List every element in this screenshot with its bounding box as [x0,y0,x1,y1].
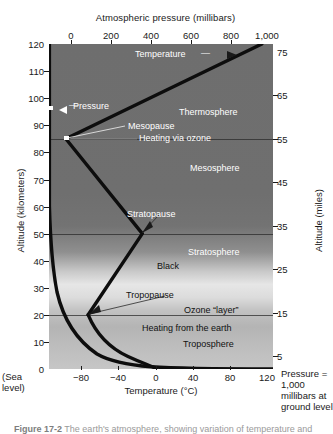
figure-caption: Figure 17-2 The earth's atmosphere, show… [14,424,331,434]
figure-caption-text: The earth's atmosphere, showing variatio… [64,424,312,434]
label-stratopause: Stratopause [127,210,176,219]
top-tick-1000: 1,000 [255,30,279,41]
left-tick-20: 20 [33,310,44,321]
label-stratosphere: Stratosphere [188,248,240,257]
label-ozone-layer: Ozone “layer” [184,306,239,315]
left-tick-120: 120 [28,39,44,50]
left-tick-10: 10 [33,337,44,348]
left-tick-40: 40 [33,256,44,267]
left-axis-title: Altitude (kilometers) [15,156,26,266]
marker-mesopause [64,136,69,140]
label-black: Black [157,262,179,271]
right-tick-15: 15 [277,308,288,319]
temperature-arrow-dash: — [201,49,210,58]
label-temperature: Temperature [135,50,186,59]
bottom-tick-minus80: −80 [73,372,89,383]
temperature-curve [66,44,262,315]
label-heating-from-earth: Heating from the earth [142,324,232,333]
right-tick-35: 35 [277,221,288,232]
ground-pressure-line1: Pressure = [281,368,333,379]
marker-pressure [49,106,53,110]
ground-pressure-line2: 1,000 [281,379,333,390]
bottom-tick-80: 80 [225,372,236,383]
plot-area: Temperature — Pressure — Thermosphere Me… [49,44,273,369]
right-axis-title: Altitude (miles) [313,171,324,271]
left-tick-90: 90 [33,120,44,131]
label-heating-via-ozone: Heating via ozone [139,134,211,143]
left-tick-50: 50 [33,229,44,240]
right-tick-45: 45 [277,177,288,188]
right-tick-65: 65 [277,90,288,101]
label-tropopause: Tropopause [126,291,174,300]
bottom-tick-minus40: −40 [110,372,126,383]
right-tick-55: 55 [277,134,288,145]
sea-level-line2: level) [2,382,44,393]
left-tick-80: 80 [33,147,44,158]
leader-mesopause [67,126,125,138]
right-tick-25: 25 [277,264,288,275]
left-tick-70: 70 [33,175,44,186]
left-tick-110: 110 [29,66,44,77]
left-tick-60: 60 [33,202,44,213]
figure-number: Figure 17-2 [14,424,62,434]
curve-layer [49,44,273,369]
bottom-tick-0: 0 [153,372,158,383]
bottom-tick-120: 120 [259,372,275,383]
label-mesopause: Mesopause [128,122,175,131]
sea-level-note: (Sea level) [2,371,44,393]
label-pressure: Pressure [73,102,109,111]
bottom-axis-title: Temperature (°C) [49,385,273,396]
ground-pressure-line4: ground level [281,401,333,412]
left-tick-100: 100 [28,93,44,104]
label-troposphere: Troposphere [183,340,234,349]
sea-level-line1: (Sea [2,371,44,382]
bottom-tick-40: 40 [188,372,199,383]
left-tick-30: 30 [33,283,44,294]
right-tick-75: 75 [277,47,288,58]
label-thermosphere: Thermosphere [179,108,238,117]
ground-pressure-note: Pressure = 1,000 millibars at ground lev… [281,368,333,412]
ground-pressure-line3: millibars at [281,390,333,401]
pressure-arrow-dash: — [69,101,78,110]
label-mesosphere: Mesosphere [190,164,240,173]
arrowhead-pressure [59,106,67,114]
